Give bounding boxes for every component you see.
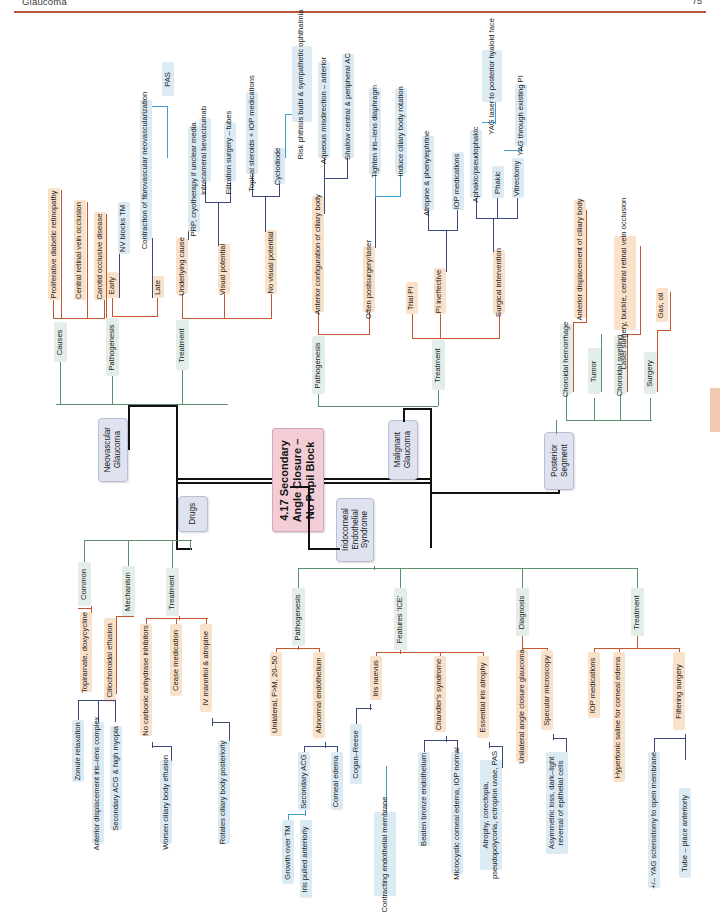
mg-trt-3-child-1[interactable]: Aphakic/pseudophakic	[470, 130, 482, 198]
ice-path-2-grandchild-3[interactable]: Contracting endothelial membrane	[374, 812, 396, 896]
nvg-trt-1[interactable]: Underlying cause	[176, 238, 188, 294]
ps-item-3-child[interactable]: Laser surgery, buckle, central retinal v…	[614, 236, 636, 330]
nvg-trt-3-grandchild[interactable]: Risk phthisis bulbi & sympathetic ophtha…	[292, 46, 312, 122]
ps-item-1-child[interactable]: Anterior displacement of ciliary body	[574, 200, 586, 318]
drugs-treatment[interactable]: Treatment	[166, 568, 179, 616]
drugs-trt-2[interactable]: Cease medication	[170, 624, 182, 696]
branch-posterior-segment[interactable]: Posterior Segment	[544, 432, 574, 490]
ice-feat-3[interactable]: Essential iris atrophy	[477, 656, 489, 738]
ice-path-2-child-1[interactable]: Secondary ACG	[298, 752, 310, 810]
ps-item-4[interactable]: Surgery	[644, 352, 657, 394]
ice-path-1[interactable]: Unilateral, F>M, 20–50	[270, 652, 282, 736]
mg-trt-1[interactable]: Trial PI	[406, 282, 418, 314]
nvg-path-early[interactable]: Early	[107, 272, 119, 298]
nvg-trt-2[interactable]: Visual potential	[218, 244, 230, 294]
ice-feat-2[interactable]: Chandler's syndrome	[434, 656, 446, 732]
nvg-pas-stem	[167, 106, 168, 158]
drugs-trt-1-child[interactable]: Worsen ciliary body effusion	[160, 760, 172, 844]
nvg-cause-2[interactable]: Central retinal vein occlusion	[74, 200, 86, 300]
ice-features[interactable]: Features 'ICE'	[394, 588, 407, 650]
nvg-cause-3[interactable]: Carotid occlusive disease	[94, 212, 106, 300]
nvg-trt-2-child-2[interactable]: Filtration surgery – tubes	[224, 122, 236, 182]
ps-item-4-stem	[657, 330, 658, 392]
nvg-pas[interactable]: PAS	[162, 62, 174, 96]
mg-path-1-child-1[interactable]: Aqueous misdirection – anterior	[318, 62, 330, 158]
mg-trt-3[interactable]: Surgical intervention	[493, 250, 505, 314]
drugs-mech-child-3[interactable]: Secondary ACG & high myopia	[110, 726, 122, 830]
ice-feat-1[interactable]: Iris naevus	[370, 656, 382, 700]
nvg-cause-1[interactable]: Proliferative diabetic retinopathy	[48, 188, 60, 300]
mg-path-1[interactable]: Anterior configuration of ciliary body	[312, 196, 324, 312]
branch-ice-syndrome[interactable]: Iridocorneal Endothelial Syndrome	[336, 498, 374, 562]
mg-treatment[interactable]: Treatment	[432, 340, 445, 390]
ice-treatment[interactable]: Treatment	[631, 588, 644, 636]
ice-diag-2[interactable]: Specular microscopy	[541, 650, 553, 730]
nvg-trt-3-child-1[interactable]: Topical steroids + IOP medications	[246, 92, 258, 174]
drugs-mech-child-1[interactable]: Zonule relaxation	[72, 720, 84, 782]
mg-trt-2-bar	[428, 230, 458, 231]
ice-trt-3[interactable]: Filtering surgery	[673, 652, 685, 730]
ice-feat-2-child-1[interactable]: Beaten bronze endothelium	[418, 752, 430, 846]
branch-drugs[interactable]: Drugs	[178, 496, 208, 532]
mg-trt-3-child-3[interactable]: Vitrectomy	[512, 158, 524, 198]
ice-pathogenesis[interactable]: Pathogenesis	[292, 588, 305, 646]
drugs-mech-child-2[interactable]: Anterior displacement iris–lens complex	[92, 722, 104, 844]
ice-path-2[interactable]: Abnormal endothelium	[313, 652, 325, 738]
drugs-common[interactable]: Common	[78, 562, 91, 606]
drugs-mech-item[interactable]: Ciliochoroidal effusion	[104, 618, 116, 702]
drugs-bar-2	[128, 540, 129, 568]
mg-path-2-child-2[interactable]: Induce ciliary body rotation	[395, 88, 407, 174]
mg-pathogenesis[interactable]: Pathogenesis	[312, 336, 325, 394]
nvg-trt-3-label: No visual potential	[267, 231, 276, 293]
mg-trt-2[interactable]: PI ineffective	[434, 268, 446, 314]
ice-diagnosis[interactable]: Diagnosis	[516, 588, 529, 636]
mg-trt-2-child-1[interactable]: Atropine & phenylephrine	[422, 136, 434, 210]
ice-trt-3-child-2[interactable]: Tube – place anteriorly	[679, 788, 691, 878]
nvg-treatment[interactable]: Treatment	[176, 320, 189, 370]
mg-trunk	[318, 406, 438, 407]
nvg-trt-3-child-2[interactable]: Cyclodiode	[273, 148, 285, 184]
drugs-trt-3-child[interactable]: Rotates ciliary body posteriorly	[218, 740, 230, 844]
ice-path-2-grandchild-1[interactable]: Growth over TM	[282, 820, 294, 884]
nvg-pathogenesis[interactable]: Pathogenesis	[106, 318, 119, 376]
ice-path-2-child-2[interactable]: Corneal edema	[331, 752, 343, 810]
branch-malignant-glaucoma[interactable]: Malignant Glaucoma	[388, 420, 418, 480]
ice-trt-3-child-1[interactable]: +/– YAG sclerostomy to open membrane	[648, 752, 660, 888]
mg-trt-3-grandchild-1[interactable]: YAG laser to posterior hyaloid face	[482, 50, 502, 102]
ice-diag-2-child[interactable]: Asymmetric loss, dark–light reversal of …	[546, 752, 568, 854]
nvg-late-child[interactable]: Contraction of fibrovascular neovascular…	[140, 100, 152, 240]
drugs-mechanism[interactable]: Mechanism	[122, 566, 135, 616]
mg-trt-3-grandchild-2[interactable]: YAG through existing PI	[515, 84, 527, 146]
spine-right-v	[430, 408, 432, 482]
connector-neovascular-v	[128, 405, 130, 450]
ice-trt-2[interactable]: Hypertonic saline for corneal edema	[613, 652, 625, 782]
nvg-causes[interactable]: Causes	[54, 322, 67, 362]
drugs-trt-1[interactable]: No carbonic anhydrase inhibitors	[140, 624, 152, 736]
ps-item-1[interactable]: Choroidal hemorrhage	[560, 324, 573, 394]
ice-diag-1[interactable]: Unilateral angle closure glaucoma	[516, 650, 528, 762]
ice-feat-3-child[interactable]: Atrophy, corectopia, pseudopolycoria, ec…	[480, 760, 502, 870]
nvg-trt-2-child-1[interactable]: Intracameral bevacizumab	[199, 118, 211, 182]
mg-trt-3-grandchild-2-label: YAG through existing PI	[517, 75, 526, 155]
ps-item-4-child[interactable]: Gas, oil	[656, 288, 668, 322]
ice-feat-2-child-2[interactable]: Microcystic corneal edema, IOP normal	[451, 752, 463, 874]
nvg-early-child[interactable]: NV blocks TM	[118, 202, 130, 254]
nvg-trt-2-bar	[205, 202, 231, 203]
ice-path-2-bar	[304, 746, 338, 747]
ice-path-2-grandchild-2[interactable]: Iris pulled anteriorly	[300, 820, 312, 898]
nvg-trt-3[interactable]: No visual potential	[265, 230, 277, 294]
ice-trt-bar	[594, 648, 680, 649]
drugs-common-item[interactable]: Topiramate, doxycycline	[80, 612, 92, 692]
mg-path-2-child-1[interactable]: Tighten iris–lens diaphragm	[369, 88, 381, 174]
branch-neovascular-glaucoma[interactable]: Neovascular Glaucoma	[98, 418, 128, 482]
ps-item-2[interactable]: Tumor	[588, 348, 601, 394]
ice-feat-1-child[interactable]: Cogan–Reese	[350, 724, 362, 784]
mg-path-2[interactable]: Often postsurgery/laser	[363, 246, 375, 312]
nvg-path-late[interactable]: Late	[152, 276, 164, 298]
central-node[interactable]: 4.17 Secondary Angle Closure – No Pupil …	[272, 428, 324, 532]
mg-trt-3-child-2[interactable]: Phakic	[492, 166, 504, 198]
ice-trt-1[interactable]: IOP medications	[588, 652, 600, 718]
drugs-trt-3[interactable]: IV mannitol & atropine	[200, 624, 212, 712]
mg-path-1-child-2[interactable]: Shallow central & peripheral AC	[342, 54, 354, 158]
mg-trt-2-child-2[interactable]: IOP medications	[452, 152, 464, 210]
